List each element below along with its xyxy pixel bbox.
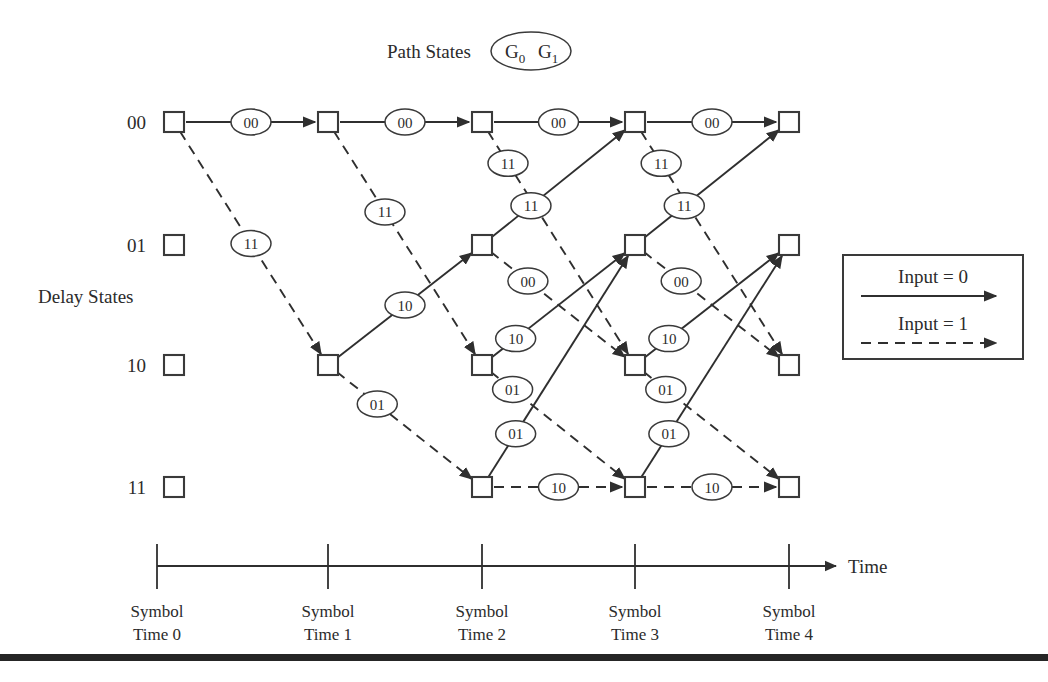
edge-label-text: 00 [551,115,566,131]
edge-label: 01 [357,391,397,417]
edge-label-text: 10 [508,331,523,347]
trellis-diagram: 0011001110010011110010010110001111001001… [0,0,1048,682]
legend: Input = 0 Input = 1 [843,255,1023,359]
edge-label: 01 [493,376,533,402]
edge-label: 11 [488,150,528,176]
legend-input1-label: Input = 1 [898,313,968,334]
edge-label-layer: 0011001110010011110010010110001111001001… [231,109,732,500]
edge-label: 00 [508,268,548,294]
trellis-node[interactable] [318,355,338,375]
time-axis-tick-label: SymbolTime 4 [763,602,816,644]
trellis-edge [644,130,779,238]
trellis-node[interactable] [472,112,492,132]
edge-label-text: 01 [505,382,520,398]
delay-states-label: Delay States [38,286,134,307]
edge-label: 10 [649,326,689,352]
edge-label: 10 [385,292,425,318]
edge-label-text: 00 [674,274,689,290]
trellis-node[interactable] [779,355,799,375]
time-axis-label: Time [848,556,887,577]
trellis-node[interactable] [318,112,338,132]
time-axis-tick-label: SymbolTime 0 [131,602,184,644]
edge-label-text: 11 [654,156,668,172]
edge-label: 11 [664,193,704,219]
edge-label-text: 11 [378,204,392,220]
trellis-node[interactable] [625,112,645,132]
trellis-node[interactable] [164,355,184,375]
edge-label: 11 [365,199,405,225]
trellis-node[interactable] [472,235,492,255]
trellis-node[interactable] [625,235,645,255]
trellis-edge [491,130,625,238]
edge-label-text: 01 [508,426,523,442]
trellis-node[interactable] [625,355,645,375]
edge-label-text: 11 [244,236,258,252]
edge-label-text: 11 [501,156,515,172]
trellis-node[interactable] [472,477,492,497]
edge-label-text: 11 [677,198,691,214]
edge-label: 11 [511,193,551,219]
edge-label: 00 [539,109,579,135]
edge-label: 00 [231,109,271,135]
edge-label-text: 01 [661,426,676,442]
time-axis-tick-label: SymbolTime 1 [302,602,355,644]
edge-layer [180,122,782,487]
edge-label: 01 [646,376,686,402]
diagram-canvas: 0011001110010011110010010110001111001001… [0,0,1048,682]
edge-label: 00 [661,268,701,294]
time-axis-ticks: SymbolTime 0SymbolTime 1SymbolTime 2Symb… [131,544,816,644]
edge-label-text: 01 [658,382,673,398]
edge-label: 00 [692,109,732,135]
edge-label: 10 [692,474,732,500]
time-axis: Time SymbolTime 0SymbolTime 1SymbolTime … [131,544,888,644]
path-states-bubble [491,32,571,70]
trellis-node[interactable] [779,235,799,255]
edge-label: 10 [539,474,579,500]
trellis-node[interactable] [164,235,184,255]
edge-label: 11 [641,150,681,176]
edge-label-text: 10 [398,298,413,314]
edge-label-text: 10 [705,480,720,496]
trellis-node[interactable] [625,477,645,497]
path-states-label: Path States [387,41,471,62]
edge-label-text: 10 [551,480,566,496]
trellis-node[interactable] [779,112,799,132]
trellis-edge [337,372,472,479]
edge-label: 01 [496,421,536,447]
edge-label: 10 [496,326,536,352]
edge-label-text: 00 [520,274,535,290]
edge-label-text: 01 [370,397,385,413]
state-label-10: 10 [127,355,146,376]
state-label-00: 00 [127,112,146,133]
edge-label-text: 00 [398,115,413,131]
trellis-node[interactable] [164,477,184,497]
path-states-header: Path States G0 G1 [387,32,571,70]
edge-label-text: 00 [705,115,720,131]
edge-label-text: 00 [244,115,259,131]
trellis-edge [334,131,475,354]
edge-label: 01 [649,421,689,447]
edge-label-text: 10 [661,331,676,347]
legend-input0-label: Input = 0 [898,266,968,287]
bottom-rule [0,654,1048,661]
edge-label: 00 [385,109,425,135]
time-axis-tick-label: SymbolTime 2 [456,602,509,644]
edge-label: 11 [231,231,271,257]
state-label-11: 11 [128,477,146,498]
trellis-node[interactable] [164,112,184,132]
edge-label-text: 11 [524,198,538,214]
node-layer [164,112,799,497]
trellis-node[interactable] [779,477,799,497]
state-label-01: 01 [127,235,146,256]
time-axis-tick-label: SymbolTime 3 [609,602,662,644]
trellis-node[interactable] [472,355,492,375]
